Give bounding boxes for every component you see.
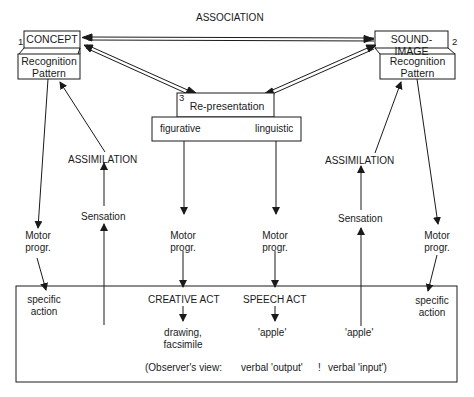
- concept-number: 1: [18, 36, 23, 47]
- left-specific-action: specific action: [24, 294, 64, 318]
- left-motor-program-outer: Motor progr.: [25, 230, 51, 254]
- verbal-input-label: verbal 'input'): [328, 362, 387, 374]
- verbal-output-label: verbal 'output': [241, 362, 303, 374]
- apple-input-label: 'apple': [345, 327, 373, 339]
- right-motor-program-outer: Motor progr.: [424, 230, 450, 254]
- linguistic-label: linguistic: [255, 123, 293, 135]
- right-sensation-label: Sensation: [338, 213, 382, 225]
- figurative-label: figurative: [160, 123, 201, 135]
- creative-act-label: CREATIVE ACT: [148, 294, 220, 306]
- concept-recognition-pattern: Recognition Pattern: [18, 55, 80, 79]
- right-assimilation-label: ASSIMILATION: [325, 155, 394, 167]
- drawing-facsimile-label: drawing, facsimile: [160, 327, 206, 351]
- left-assimilation-label: ASSIMILATION: [68, 154, 137, 166]
- apple-output-label: 'apple': [258, 327, 286, 339]
- observer-view-label: (Observer's view:: [145, 362, 222, 374]
- association-label: ASSOCIATION: [196, 12, 264, 24]
- right-motor-program-inner: Motor progr.: [262, 230, 288, 254]
- sound-image-recognition-pattern: Recognition Pattern: [380, 55, 455, 79]
- sound-image-label: SOUND-IMAGE: [375, 33, 448, 57]
- right-specific-action: specific action: [412, 295, 452, 319]
- left-sensation-label: Sensation: [81, 211, 125, 223]
- actions-box: [16, 286, 457, 382]
- separator-mark: !: [318, 362, 321, 374]
- speech-act-label: SPEECH ACT: [243, 294, 306, 306]
- representation-label: Re-presentation: [180, 100, 274, 112]
- concept-label: CONCEPT: [24, 33, 80, 45]
- left-motor-program-inner: Motor progr.: [170, 230, 196, 254]
- sound-image-number: 2: [452, 36, 457, 47]
